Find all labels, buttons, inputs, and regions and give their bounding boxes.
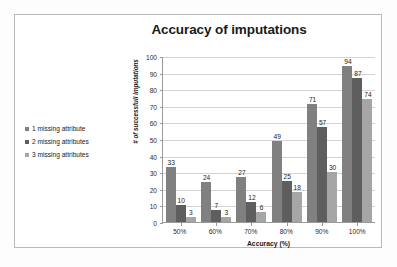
- plot-wrapper: # of successfull imputations 01020304050…: [143, 48, 379, 248]
- legend-label-series-2: 2 missing attributes: [32, 138, 89, 145]
- y-tick-label: 70: [137, 103, 157, 110]
- bar-value-label: 27: [238, 168, 245, 177]
- y-tick-label: 100: [137, 54, 157, 61]
- y-tick-label: 20: [137, 186, 157, 193]
- bar-value-label: 7: [214, 201, 218, 210]
- bar-value-label: 6: [260, 203, 264, 212]
- y-tickmark: [160, 223, 163, 224]
- x-tick-label: 50%: [162, 228, 198, 235]
- bar-value-label: 10: [178, 196, 185, 205]
- bar-group: 492518: [269, 57, 304, 222]
- bar-group: 948774: [340, 57, 375, 222]
- y-tick-label: 80: [137, 87, 157, 94]
- bar[interactable]: 57: [317, 127, 327, 222]
- bar[interactable]: 27: [236, 177, 246, 222]
- y-tick-label: 0: [137, 220, 157, 227]
- bar-value-label: 74: [364, 90, 371, 99]
- chart-title: Accuracy of imputations: [15, 22, 381, 37]
- legend-swatch-series-1: [25, 127, 29, 131]
- bar-value-label: 30: [329, 163, 336, 172]
- bar-group: 715730: [304, 57, 339, 222]
- bar[interactable]: 3: [186, 217, 196, 222]
- bar[interactable]: 7: [211, 210, 221, 222]
- chart-frame: Accuracy of imputations 1 missing attrib…: [14, 14, 382, 248]
- bar-group: 27126: [234, 57, 269, 222]
- x-tickmark: [181, 222, 182, 226]
- y-tick-label: 90: [137, 70, 157, 77]
- legend-swatch-series-2: [25, 140, 29, 144]
- bar-value-label: 18: [294, 183, 301, 192]
- y-axis-tick-labels: 0102030405060708090100: [143, 57, 160, 223]
- bar-value-label: 12: [248, 193, 255, 202]
- bar[interactable]: 49: [272, 141, 282, 222]
- y-tick-label: 40: [137, 153, 157, 160]
- x-tickmark: [287, 222, 288, 226]
- bar[interactable]: 25: [282, 181, 292, 223]
- x-tick-label: 100%: [340, 228, 376, 235]
- bar[interactable]: 24: [201, 182, 211, 222]
- bar[interactable]: 18: [292, 192, 302, 222]
- x-tick-label: 90%: [304, 228, 340, 235]
- y-tick-label: 30: [137, 170, 157, 177]
- bar-value-label: 57: [319, 118, 326, 127]
- plot-area: 33103247327126492518715730948774: [162, 57, 375, 223]
- bar-value-label: 33: [168, 158, 175, 167]
- bar[interactable]: 33: [166, 167, 176, 222]
- legend-swatch-series-3: [25, 153, 29, 157]
- bar-value-label: 3: [189, 208, 193, 217]
- x-tick-label: 70%: [233, 228, 269, 235]
- chart-legend: 1 missing attribute 2 missing attributes…: [25, 125, 125, 164]
- x-tickmark: [322, 222, 323, 226]
- bar[interactable]: 87: [352, 78, 362, 222]
- y-tick-label: 10: [137, 203, 157, 210]
- bar[interactable]: 71: [307, 104, 317, 222]
- x-tick-label: 80%: [269, 228, 305, 235]
- bar-value-label: 71: [309, 95, 316, 104]
- bar-group: 2473: [198, 57, 233, 222]
- y-tick-label: 60: [137, 120, 157, 127]
- bar-value-label: 49: [274, 132, 281, 141]
- bar-value-label: 94: [344, 57, 351, 66]
- bar-value-label: 3: [224, 208, 228, 217]
- legend-item-1: 1 missing attribute: [25, 125, 125, 132]
- bar[interactable]: 6: [256, 212, 266, 222]
- y-tick-label: 50: [137, 137, 157, 144]
- bar[interactable]: 30: [327, 172, 337, 222]
- legend-label-series-1: 1 missing attribute: [32, 125, 86, 132]
- x-axis-tick-labels: 50%60%70%80%90%100%: [162, 228, 375, 235]
- bar-groups: 33103247327126492518715730948774: [163, 57, 375, 222]
- bar-value-label: 87: [354, 69, 361, 78]
- bar-group: 33103: [163, 57, 198, 222]
- legend-label-series-3: 3 missing attributes: [32, 151, 89, 158]
- bar[interactable]: 74: [362, 99, 372, 222]
- bar[interactable]: 12: [246, 202, 256, 222]
- bar[interactable]: 94: [342, 66, 352, 222]
- x-tickmark: [251, 222, 252, 226]
- bar[interactable]: 10: [176, 205, 186, 222]
- x-tickmark: [357, 222, 358, 226]
- bar-value-label: 25: [284, 172, 291, 181]
- bar-value-label: 24: [203, 173, 210, 182]
- x-tickmark: [216, 222, 217, 226]
- x-axis-title: Accuracy (%): [162, 240, 375, 247]
- legend-item-3: 3 missing attributes: [25, 151, 125, 158]
- x-tick-label: 60%: [198, 228, 234, 235]
- bar[interactable]: 3: [221, 217, 231, 222]
- legend-item-2: 2 missing attributes: [25, 138, 125, 145]
- page-background: Accuracy of imputations 1 missing attrib…: [0, 0, 397, 267]
